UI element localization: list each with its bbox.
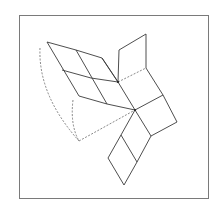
- dashed-fold-lines: [40, 48, 146, 141]
- left-rhombus-grid: [47, 42, 135, 110]
- net-diagram: [0, 0, 216, 205]
- bottom-rhombus-pair: [108, 110, 151, 185]
- right-rhombus-strip: [135, 68, 177, 136]
